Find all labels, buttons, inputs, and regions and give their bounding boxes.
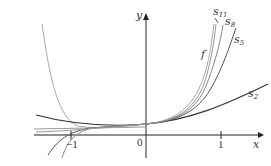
taylor-polynomial-chart: y x 0 −1 1 f s11 s8 s5 s2	[0, 0, 271, 166]
tick-neg1-label: −1	[66, 138, 78, 150]
s11-pointer-icon	[215, 18, 218, 23]
curve-s8	[62, 25, 223, 158]
label-f: f	[200, 48, 207, 61]
y-axis-label: y	[135, 9, 143, 22]
y-axis-arrow-icon	[143, 13, 149, 20]
label-s5: s5	[234, 33, 245, 47]
origin-label: 0	[137, 136, 143, 148]
curve-s2	[36, 84, 268, 125]
label-s8: s8	[225, 15, 236, 29]
x-axis-label: x	[253, 138, 260, 151]
tick-1-label: 1	[218, 138, 224, 150]
chart-svg: y x 0 −1 1 f s11 s8 s5 s2	[0, 0, 271, 166]
